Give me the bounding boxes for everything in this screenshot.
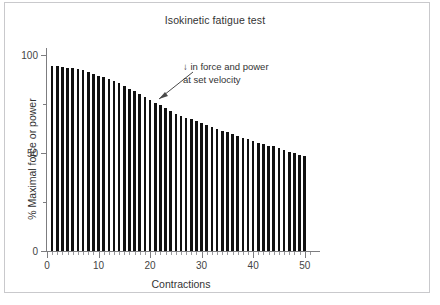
- x-tick-minor: [310, 252, 311, 255]
- bar: [149, 100, 152, 251]
- bar: [144, 97, 147, 251]
- x-tick-minor: [73, 252, 74, 255]
- x-tick-minor: [145, 252, 146, 255]
- bar: [56, 66, 59, 251]
- x-tick-label-10: 10: [82, 260, 116, 271]
- x-tick-label-0: 0: [30, 260, 64, 271]
- bar: [77, 69, 80, 251]
- x-tick-minor: [243, 252, 244, 255]
- x-tick-label-50: 50: [288, 260, 322, 271]
- x-tick-minor: [300, 252, 301, 255]
- bar: [185, 118, 188, 251]
- bar: [113, 81, 116, 251]
- bar: [123, 86, 126, 251]
- x-tick-minor: [104, 252, 105, 255]
- bar: [195, 121, 198, 251]
- x-tick-minor: [207, 252, 208, 255]
- bar: [128, 89, 131, 251]
- bar: [303, 156, 306, 251]
- x-tick-minor: [171, 252, 172, 255]
- x-tick-minor: [238, 252, 239, 255]
- x-tick-minor: [124, 252, 125, 255]
- x-tick-minor: [284, 252, 285, 255]
- chart-title: Isokinetic fatigue test: [0, 14, 430, 26]
- x-tick-40: [253, 252, 254, 258]
- x-tick-minor: [78, 252, 79, 255]
- decline-annotation: ↓ in force and power at set velocity: [183, 61, 269, 86]
- x-tick-20: [150, 252, 151, 258]
- x-tick-minor: [217, 252, 218, 255]
- bar: [118, 83, 121, 251]
- x-tick-minor: [186, 252, 187, 255]
- x-tick-minor: [279, 252, 280, 255]
- x-tick-minor: [222, 252, 223, 255]
- bar: [108, 79, 111, 251]
- x-tick-minor: [52, 252, 53, 255]
- bar: [190, 119, 193, 251]
- x-axis-title: Contractions: [47, 278, 315, 290]
- x-tick-10: [99, 252, 100, 258]
- x-tick-minor: [248, 252, 249, 255]
- bar: [278, 148, 281, 251]
- x-tick-minor: [274, 252, 275, 255]
- x-tick-minor: [269, 252, 270, 255]
- bar: [175, 114, 178, 251]
- x-tick-minor: [62, 252, 63, 255]
- bar: [87, 72, 90, 251]
- x-tick-minor: [263, 252, 264, 255]
- bar: [92, 74, 95, 251]
- x-tick-minor: [166, 252, 167, 255]
- bar: [293, 153, 296, 251]
- bar: [51, 66, 54, 251]
- y-tick-label-100: 100: [8, 50, 38, 61]
- bar: [102, 77, 105, 251]
- bar: [154, 103, 157, 251]
- bar: [252, 141, 255, 251]
- x-tick-minor: [57, 252, 58, 255]
- x-tick-minor: [233, 252, 234, 255]
- bar: [97, 76, 100, 251]
- y-axis-title: % Maximal force or power: [26, 64, 38, 254]
- bar: [272, 146, 275, 251]
- bar: [138, 94, 141, 251]
- x-tick-minor: [129, 252, 130, 255]
- bar: [169, 111, 172, 251]
- x-tick-label-20: 20: [133, 260, 167, 271]
- figure-root: Isokinetic fatigue test 100 50 0 % Maxim…: [0, 0, 440, 305]
- bar: [231, 134, 234, 251]
- x-tick-minor: [119, 252, 120, 255]
- bar: [298, 155, 301, 251]
- bar: [283, 150, 286, 251]
- x-tick-minor: [294, 252, 295, 255]
- bar: [236, 136, 239, 251]
- x-tick-label-30: 30: [185, 260, 219, 271]
- bar: [66, 68, 69, 251]
- bar: [242, 138, 245, 251]
- bar: [133, 91, 136, 251]
- x-tick-minor: [155, 252, 156, 255]
- bar: [216, 129, 219, 251]
- x-tick-minor: [114, 252, 115, 255]
- bar: [288, 152, 291, 251]
- bar: [257, 143, 260, 251]
- x-tick-minor: [68, 252, 69, 255]
- bar: [221, 131, 224, 251]
- bar: [262, 144, 265, 251]
- x-tick-30: [202, 252, 203, 258]
- x-tick-minor: [109, 252, 110, 255]
- x-tick-minor: [135, 252, 136, 255]
- x-tick-minor: [88, 252, 89, 255]
- bar: [159, 105, 162, 251]
- bar: [180, 116, 183, 251]
- bar: [267, 146, 270, 251]
- bar: [61, 67, 64, 251]
- bar: [205, 125, 208, 251]
- annotation-line-1: ↓ in force and power: [183, 61, 269, 74]
- x-tick-minor: [258, 252, 259, 255]
- bar: [200, 123, 203, 251]
- x-tick-minor: [289, 252, 290, 255]
- x-tick-minor: [93, 252, 94, 255]
- bar: [71, 68, 74, 251]
- x-tick-minor: [196, 252, 197, 255]
- bar: [164, 108, 167, 251]
